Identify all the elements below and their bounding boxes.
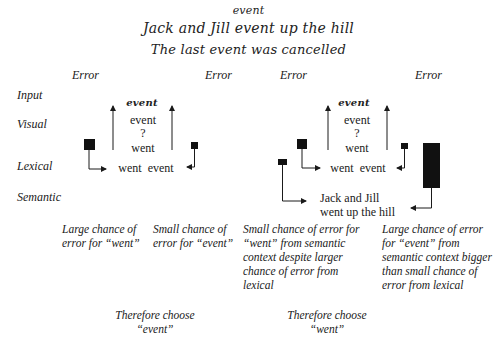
right-error-box-lexical-large: [297, 139, 307, 149]
diagram-graphics: [0, 0, 497, 350]
right-input-word: event: [334, 97, 374, 108]
right-semantic-line1: Jack and Jill: [320, 191, 379, 206]
left-error-box-small: [191, 142, 198, 149]
conclusion-right-line1: Therefore choose: [272, 308, 382, 322]
right-semantic-line2: went up the hill: [320, 205, 395, 220]
conclusion-right-line2: “went”: [272, 322, 382, 336]
left-lexical-words: went event: [106, 161, 186, 176]
caption-left-event: Small chance of error for “event”: [153, 222, 235, 250]
caption-left-went: Large chance of error for “went”: [62, 222, 144, 250]
right-lexical-words: went event: [318, 161, 398, 176]
left-visual-question: ?: [118, 126, 168, 141]
right-error-box-lexical-small: [401, 143, 408, 149]
right-visual-bottom: went: [332, 141, 382, 156]
right-visual-question: ?: [332, 126, 382, 141]
left-error-box-large: [84, 139, 95, 150]
conclusion-left-line1: Therefore choose: [100, 308, 210, 322]
left-input-word: event: [122, 97, 162, 108]
caption-right-event: Large chance of error for “event” from s…: [382, 222, 492, 292]
right-error-box-semantic-large: [423, 143, 440, 188]
conclusion-left-line2: “event”: [100, 322, 210, 336]
right-error-box-semantic-small: [278, 159, 287, 165]
left-visual-bottom: went: [118, 141, 168, 156]
caption-right-went: Small chance of error for “went” from se…: [243, 222, 361, 292]
